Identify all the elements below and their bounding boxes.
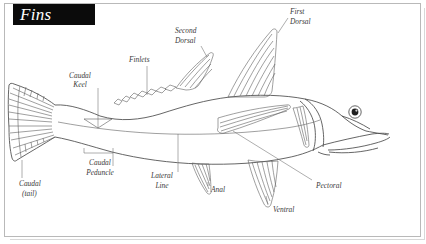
label-caudal-tail-line2: (tail) [22, 189, 37, 198]
label-caudal-tail-line1: Caudal [19, 179, 41, 188]
label-caudal-peduncle-line1: Caudal [89, 158, 111, 167]
label-anal: Anal [210, 185, 225, 194]
ventral-fin [248, 160, 278, 207]
lateral-line [58, 120, 320, 134]
second-dorsal-fin [176, 53, 213, 90]
label-caudal-keel-line2: Keel [72, 80, 87, 89]
label-ventral: Ventral [273, 205, 294, 214]
first-dorsal-fin [228, 29, 277, 97]
anal-fin [192, 163, 211, 194]
label-first-dorsal-line1: First [289, 7, 305, 16]
label-first-dorsal-line2: Dorsal [289, 17, 311, 26]
label-lateral-line-line1: Lateral [150, 171, 173, 180]
label-caudal-peduncle-line2: Peduncle [85, 168, 114, 177]
leader-caudal-peduncle [84, 148, 113, 153]
label-lateral-line-line2: Line [154, 181, 169, 190]
fish-illustration: Caudal Keel Finlets Second Dorsal First … [0, 0, 426, 244]
label-caudal-keel-line1: Caudal [69, 71, 91, 80]
label-finlets-line1: Finlets [128, 55, 150, 64]
fish-eye [349, 106, 361, 118]
label-second-dorsal-line2: Dorsal [174, 36, 196, 45]
label-second-dorsal-line1: Second [175, 26, 197, 35]
label-pectoral: Pectoral [315, 181, 341, 190]
caudal-fin [8, 83, 55, 161]
dorsal-finlets [114, 85, 176, 105]
leader-second-dorsal [201, 46, 207, 57]
leader-pectoral [233, 131, 312, 180]
fish-body-outline [55, 95, 390, 164]
label-group: Caudal Keel Finlets Second Dorsal First … [19, 7, 341, 214]
leader-first-dorsal [278, 18, 288, 33]
diagram-page: Fins [0, 0, 426, 244]
